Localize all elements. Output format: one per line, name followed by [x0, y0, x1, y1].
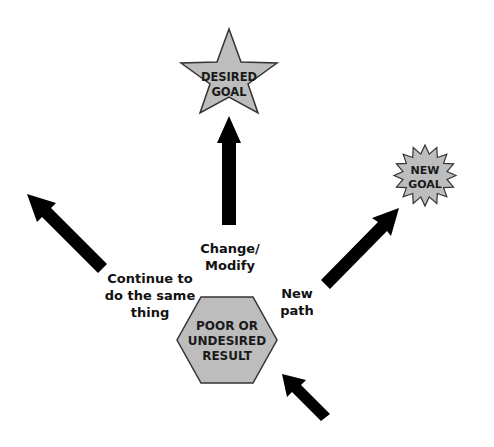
change-path-label: Change/ Modify	[200, 241, 260, 273]
continue-path-label: Continue to do the same thing	[105, 271, 196, 320]
continue-label-line2: do the same	[105, 288, 196, 303]
arrow-into-result-icon	[282, 374, 330, 421]
new-goal-label-line2: GOAL	[408, 178, 442, 191]
continue-label-line3: thing	[131, 305, 170, 320]
arrow-up-icon	[217, 116, 241, 225]
change-label-line1: Change/	[200, 241, 260, 256]
new-path-label-line1: New	[281, 286, 313, 301]
new-goal-node: NEW GOAL	[394, 145, 456, 206]
new-path-label-line2: path	[280, 303, 314, 318]
arrow-up-left-icon	[27, 194, 107, 273]
new-goal-label-line1: NEW	[411, 164, 440, 177]
arrow-up-right-icon	[321, 208, 399, 289]
poor-result-label-line1: POOR OR	[196, 319, 258, 333]
desired-goal-label-line1: DESIRED	[201, 70, 257, 84]
change-label-line2: Modify	[205, 258, 255, 273]
desired-goal-label-line2: GOAL	[211, 85, 247, 99]
poor-result-node: POOR OR UNDESIRED RESULT	[177, 297, 277, 383]
desired-goal-node: DESIRED GOAL	[181, 29, 277, 113]
decision-paths-diagram: DESIRED GOAL NEW GOAL POOR OR UNDESIRED …	[0, 0, 494, 447]
new-path-label: New path	[280, 286, 314, 318]
poor-result-label-line2: UNDESIRED	[188, 334, 266, 348]
continue-label-line1: Continue to	[107, 271, 192, 286]
poor-result-label-line3: RESULT	[202, 349, 252, 363]
